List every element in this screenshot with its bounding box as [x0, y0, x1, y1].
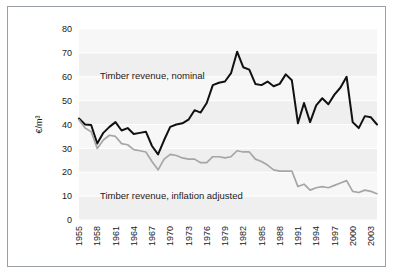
- x-tick-label: 1967: [147, 226, 157, 246]
- x-tick-label: 1997: [330, 226, 340, 246]
- x-tick-label: 2003: [366, 226, 376, 246]
- y-axis-title: €/m³: [34, 115, 44, 133]
- x-tick-label: 1958: [92, 226, 102, 246]
- x-tick-label: 1985: [257, 226, 267, 246]
- y-tick-label: 40: [62, 120, 72, 130]
- x-tick-label: 1976: [202, 226, 212, 246]
- x-tick-label: 1970: [165, 226, 175, 246]
- x-axis-tick-labels: 1955195819611964196719701973197619791982…: [74, 226, 376, 246]
- x-tick-label: 2000: [348, 226, 358, 246]
- x-tick-label: 1955: [74, 226, 84, 246]
- timber-revenue-line-chart: 01020304050607080 1955195819611964196719…: [8, 7, 385, 266]
- y-tick-label: 80: [62, 24, 72, 34]
- x-tick-label: 1991: [293, 226, 303, 246]
- x-tick-label: 1964: [129, 226, 139, 246]
- y-axis-tick-labels: 01020304050607080: [62, 24, 72, 225]
- x-tick-label: 1982: [238, 226, 248, 246]
- x-tick-label: 1988: [275, 226, 285, 246]
- series-label-nominal: Timber revenue, nominal: [100, 70, 205, 81]
- x-tick-label: 1961: [111, 226, 121, 246]
- x-tick-label: 1979: [220, 226, 230, 246]
- y-tick-label: 70: [62, 48, 72, 58]
- series-label-inflation-adjusted: Timber revenue, inflation adjusted: [100, 190, 243, 201]
- y-tick-label: 50: [62, 96, 72, 106]
- y-tick-label: 20: [62, 167, 72, 177]
- plot-band: [79, 148, 377, 172]
- y-tick-label: 0: [67, 215, 72, 225]
- y-tick-label: 10: [62, 191, 72, 201]
- plot-band: [79, 101, 377, 125]
- figure-frame: 01020304050607080 1955195819611964196719…: [7, 6, 386, 267]
- x-tick-label: 1994: [311, 226, 321, 246]
- y-tick-label: 60: [62, 72, 72, 82]
- y-tick-label: 30: [62, 144, 72, 154]
- x-tick-label: 1973: [184, 226, 194, 246]
